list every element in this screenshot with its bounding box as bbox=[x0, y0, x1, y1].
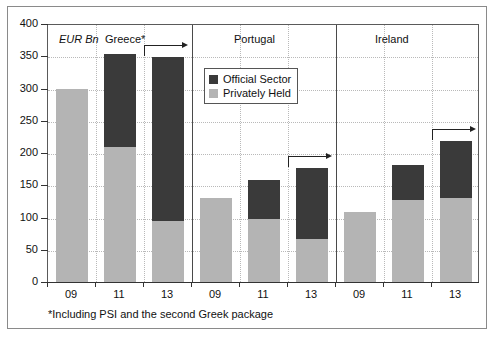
bar-segment-official bbox=[296, 168, 328, 239]
legend-label-private: Privately Held bbox=[223, 87, 291, 99]
trend-arrow-icon bbox=[432, 129, 476, 140]
arrow-head bbox=[326, 153, 332, 159]
y-tick-label: 250 bbox=[0, 114, 38, 126]
bar-09 bbox=[56, 89, 88, 283]
trend-arrow-icon bbox=[144, 45, 188, 56]
bar-segment-private bbox=[296, 239, 328, 282]
bar-segment-private bbox=[152, 221, 184, 282]
bar-13 bbox=[440, 141, 472, 282]
bar-11 bbox=[248, 180, 280, 282]
bar-segment-private bbox=[392, 200, 424, 282]
y-tick-mark bbox=[41, 56, 48, 57]
y-tick-label: 0 bbox=[0, 275, 38, 287]
bar-13 bbox=[152, 57, 184, 282]
legend: Official Sector Privately Held bbox=[204, 68, 298, 104]
vertical-gridline bbox=[288, 25, 289, 282]
legend-swatch-private-icon bbox=[209, 89, 218, 98]
chart-figure: EUR Bn Greece* Portugal Ireland 05010015… bbox=[0, 0, 497, 338]
group-separator bbox=[336, 25, 337, 282]
bar-segment-private bbox=[344, 212, 376, 282]
x-tick-mark bbox=[143, 282, 144, 287]
bar-segment-private bbox=[56, 89, 88, 283]
bar-segment-official bbox=[392, 165, 424, 200]
legend-item-private: Privately Held bbox=[209, 86, 291, 100]
bar-segment-official bbox=[152, 57, 184, 221]
bar-segment-official bbox=[440, 141, 472, 197]
x-tick-mark bbox=[287, 282, 288, 287]
x-axis-line bbox=[47, 282, 479, 283]
bar-segment-private bbox=[248, 219, 280, 282]
x-tick-mark bbox=[335, 282, 336, 287]
bar-11 bbox=[392, 165, 424, 282]
vertical-gridline bbox=[240, 25, 241, 282]
unit-label: EUR Bn bbox=[59, 33, 99, 45]
trend-arrow-icon bbox=[288, 156, 332, 167]
y-tick-mark bbox=[41, 218, 48, 219]
y-tick-label: 100 bbox=[0, 211, 38, 223]
legend-item-official: Official Sector bbox=[209, 72, 291, 86]
y-tick-mark bbox=[41, 121, 48, 122]
bar-09 bbox=[200, 198, 232, 282]
group-title-portugal: Portugal bbox=[234, 33, 275, 45]
x-tick-label: 09 bbox=[65, 288, 77, 300]
y-tick-label: 150 bbox=[0, 178, 38, 190]
arrow-stem-vertical bbox=[288, 156, 289, 167]
vertical-gridline bbox=[432, 25, 433, 282]
group-title-greece: Greece* bbox=[105, 33, 145, 45]
y-tick-mark bbox=[41, 89, 48, 90]
x-tick-label: 09 bbox=[353, 288, 365, 300]
bar-09 bbox=[344, 212, 376, 282]
x-tick-mark bbox=[191, 282, 192, 287]
x-tick-mark bbox=[431, 282, 432, 287]
x-tick-label: 11 bbox=[401, 288, 412, 300]
bar-13 bbox=[296, 168, 328, 282]
arrow-stem-horizontal bbox=[432, 129, 470, 130]
y-tick-mark bbox=[41, 250, 48, 251]
x-tick-mark bbox=[383, 282, 384, 287]
vertical-gridline bbox=[96, 25, 97, 282]
arrow-stem-horizontal bbox=[288, 156, 326, 157]
x-tick-mark bbox=[239, 282, 240, 287]
legend-swatch-official-icon bbox=[209, 75, 218, 84]
x-tick-label: 11 bbox=[113, 288, 124, 300]
bar-segment-official bbox=[104, 54, 136, 146]
arrow-head bbox=[470, 126, 476, 132]
bar-segment-official bbox=[248, 180, 280, 219]
x-tick-mark bbox=[47, 282, 48, 287]
vertical-gridline bbox=[384, 25, 385, 282]
arrow-stem-vertical bbox=[144, 45, 145, 56]
x-tick-mark bbox=[95, 282, 96, 287]
vertical-gridline bbox=[144, 25, 145, 282]
group-title-ireland: Ireland bbox=[375, 33, 409, 45]
x-tick-label: 13 bbox=[305, 288, 317, 300]
x-tick-label: 13 bbox=[161, 288, 173, 300]
y-tick-label: 400 bbox=[0, 17, 38, 29]
plot-area: EUR Bn Greece* Portugal Ireland bbox=[47, 24, 479, 282]
y-tick-mark bbox=[41, 185, 48, 186]
legend-label-official: Official Sector bbox=[223, 73, 291, 85]
footnote: *Including PSI and the second Greek pack… bbox=[48, 308, 273, 320]
y-tick-label: 300 bbox=[0, 82, 38, 94]
y-tick-label: 50 bbox=[0, 243, 38, 255]
bar-segment-private bbox=[440, 198, 472, 282]
bar-11 bbox=[104, 54, 136, 282]
group-separator bbox=[192, 25, 193, 282]
bar-segment-private bbox=[104, 147, 136, 282]
y-tick-mark bbox=[41, 24, 48, 25]
y-tick-label: 350 bbox=[0, 49, 38, 61]
arrow-stem-vertical bbox=[432, 129, 433, 140]
y-tick-label: 200 bbox=[0, 146, 38, 158]
arrow-stem-horizontal bbox=[144, 45, 182, 46]
arrow-head bbox=[182, 42, 188, 48]
bar-segment-private bbox=[200, 198, 232, 282]
y-tick-mark bbox=[41, 153, 48, 154]
x-tick-label: 09 bbox=[209, 288, 221, 300]
x-tick-label: 13 bbox=[449, 288, 461, 300]
x-tick-label: 11 bbox=[257, 288, 268, 300]
